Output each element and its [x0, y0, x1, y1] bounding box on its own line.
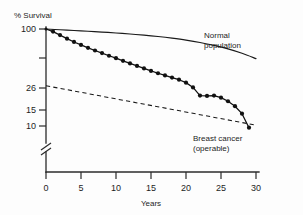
data-point-marker — [142, 66, 146, 70]
x-tick-label-0: 0 — [43, 183, 48, 193]
annotation-breast-cancer-line2: (operable) — [193, 144, 230, 153]
data-point-marker — [72, 40, 76, 44]
x-axis-title: Years — [141, 199, 161, 208]
data-point-marker — [86, 46, 90, 50]
data-point-marker — [184, 81, 188, 85]
annotation-normal-population-line2: population — [204, 41, 241, 50]
data-point-marker — [177, 78, 181, 82]
annotation-normal-population-line1: Normal — [204, 31, 230, 40]
data-point-marker — [107, 54, 111, 58]
data-point-marker — [219, 96, 223, 100]
series-expected-baseline-line — [46, 86, 256, 125]
data-point-marker — [205, 94, 209, 98]
x-tick-label-15: 15 — [146, 183, 156, 193]
data-point-marker — [240, 112, 244, 116]
data-point-marker — [226, 99, 230, 103]
data-point-marker — [156, 71, 160, 75]
data-point-marker — [212, 93, 216, 97]
data-point-marker — [51, 30, 55, 34]
y-axis-title: % Survival — [14, 11, 52, 20]
survival-chart-figure: 100 26 15 10 % Survival 0 5 10 15 20 25 … — [0, 0, 303, 215]
x-tick-label-5: 5 — [78, 183, 83, 193]
x-tick-label-25: 25 — [216, 183, 226, 193]
data-point-marker — [247, 126, 251, 130]
data-point-marker — [93, 48, 97, 52]
y-tick-label-26: 26 — [26, 83, 36, 93]
data-point-marker — [114, 56, 118, 60]
x-tick-label-30: 30 — [251, 183, 261, 193]
data-point-marker — [198, 93, 202, 97]
x-axis-group: 0 5 10 15 20 25 30 Years — [43, 172, 261, 208]
y-tick-label-100: 100 — [21, 24, 36, 34]
data-point-marker — [121, 59, 125, 63]
x-tick-label-20: 20 — [181, 183, 191, 193]
data-point-marker — [191, 85, 195, 89]
data-point-marker — [135, 64, 139, 68]
annotation-normal-population: Normal population — [204, 31, 241, 50]
y-axis-group: 100 26 15 10 % Survival — [14, 11, 52, 172]
data-point-marker — [149, 69, 153, 73]
data-point-marker — [45, 28, 48, 31]
chart-svg: 100 26 15 10 % Survival 0 5 10 15 20 25 … — [0, 0, 303, 215]
data-point-marker — [79, 43, 83, 47]
x-tick-label-10: 10 — [111, 183, 121, 193]
data-point-marker — [65, 37, 69, 41]
data-point-marker — [128, 61, 132, 65]
annotation-breast-cancer: Breast cancer (operable) — [193, 134, 243, 153]
data-point-marker — [170, 75, 174, 79]
data-point-marker — [58, 33, 62, 37]
annotation-breast-cancer-line1: Breast cancer — [193, 134, 243, 143]
y-tick-label-10: 10 — [26, 121, 36, 131]
y-tick-label-15: 15 — [26, 105, 36, 115]
data-point-marker — [163, 73, 167, 77]
data-point-marker — [100, 51, 104, 55]
data-point-marker — [233, 104, 237, 108]
